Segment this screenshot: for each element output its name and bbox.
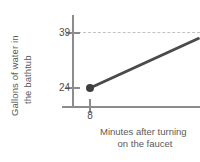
series-start-point-marker	[86, 84, 94, 92]
chart-container: Gallons of water in the bathtub 39 24 8 …	[0, 0, 200, 162]
x-axis-label-line-2: on the faucet	[98, 138, 200, 150]
x-axis-label-line-1: Minutes after turning	[98, 126, 200, 138]
x-axis-label: Minutes after turning on the faucet	[98, 126, 200, 150]
series-line-water	[90, 39, 198, 89]
